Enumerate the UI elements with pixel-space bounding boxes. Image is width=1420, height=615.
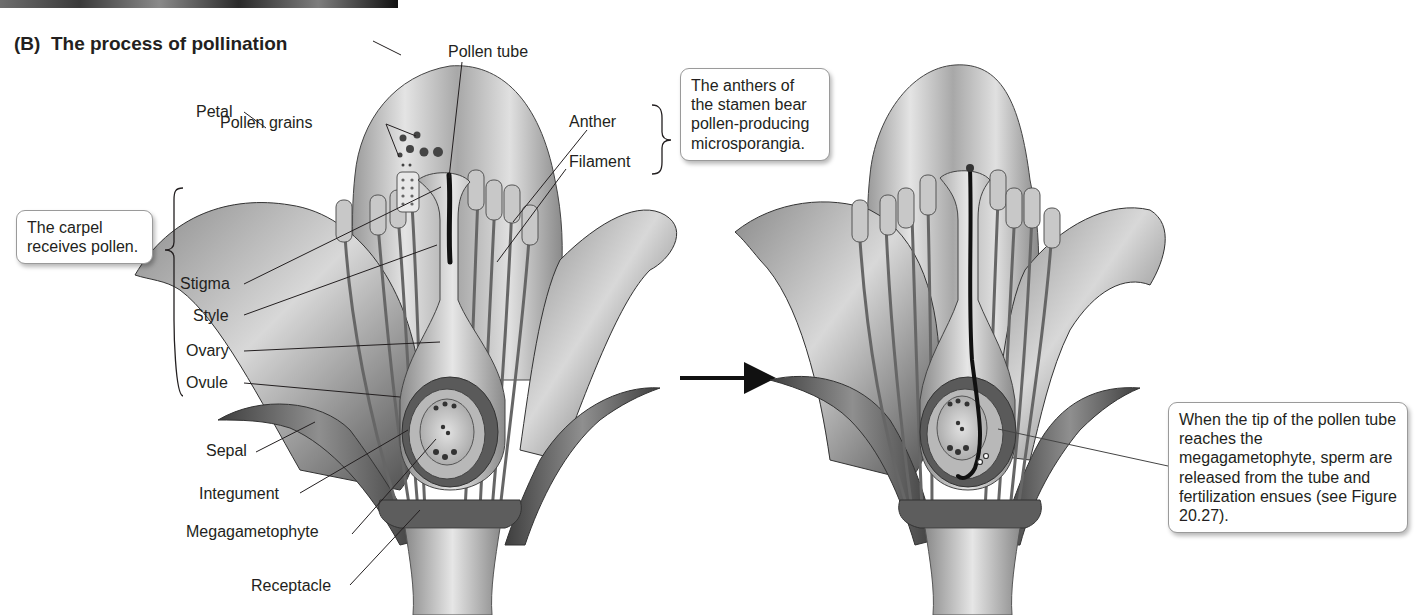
callout-fertilization-text: When the tip of the pollen tube reaches … xyxy=(1179,411,1397,524)
carpel-bracket xyxy=(165,188,183,396)
stamen-bracket xyxy=(652,105,671,174)
label-ovary: Ovary xyxy=(186,343,229,359)
label-sepal: Sepal xyxy=(206,443,247,459)
label-integument: Integument xyxy=(199,486,279,502)
label-filament: Filament xyxy=(569,154,630,170)
label-petal: Petal xyxy=(196,104,232,120)
callout-carpel: The carpel receives pollen. xyxy=(16,210,153,264)
label-pollen-tube: Pollen tube xyxy=(448,44,528,60)
callout-carpel-text: The carpel receives pollen. xyxy=(27,219,138,255)
label-receptacle: Receptacle xyxy=(251,578,331,594)
callout-fertilization: When the tip of the pollen tube reaches … xyxy=(1168,402,1408,533)
label-stigma: Stigma xyxy=(180,276,230,292)
label-ovule: Ovule xyxy=(186,375,228,391)
callout-stamen-text: The anthers of the stamen bear pollen-pr… xyxy=(691,77,809,152)
label-megagametophyte: Megagametophyte xyxy=(186,524,319,540)
label-pollen-grains: Pollen grains xyxy=(220,115,313,131)
label-anther: Anther xyxy=(569,114,616,130)
label-style: Style xyxy=(193,308,229,324)
callout-stamen: The anthers of the stamen bear pollen-pr… xyxy=(680,68,830,161)
